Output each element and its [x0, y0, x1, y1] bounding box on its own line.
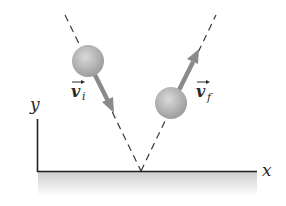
ball-outgoing [155, 87, 187, 119]
ground-surface [38, 172, 257, 196]
svg-text:f: f [206, 91, 213, 104]
final-velocity-label: v f [196, 80, 213, 104]
initial-velocity-label: v i [71, 80, 86, 103]
svg-text:v: v [196, 82, 206, 101]
ball-incoming [72, 45, 104, 77]
svg-text:v: v [71, 82, 81, 101]
svg-text:i: i [82, 90, 86, 103]
initial-velocity-arrow [95, 75, 114, 113]
y-axis-label: y [29, 94, 40, 114]
x-axis-label: x [262, 160, 272, 180]
ball-bounce-diagram: y x v i v f [0, 0, 286, 206]
